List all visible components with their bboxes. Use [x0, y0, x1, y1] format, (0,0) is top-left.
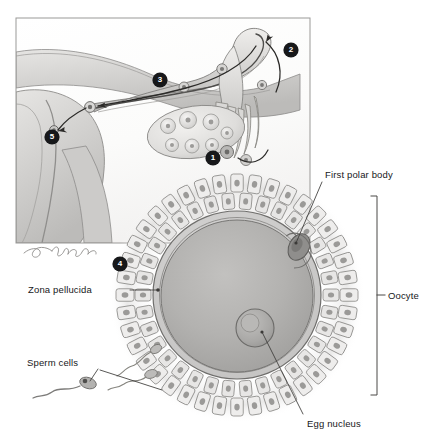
marker-3	[152, 72, 167, 87]
ovulation-fertilization-figure	[0, 0, 438, 448]
leader-sperm-2	[90, 369, 98, 381]
marker-2	[283, 42, 298, 57]
egg-nucleus-highlight	[241, 314, 259, 332]
label-zona-pellucida: Zona pellucida	[28, 285, 92, 295]
label-sperm-cells: Sperm cells	[27, 358, 78, 368]
released-oocyte	[225, 150, 230, 155]
corona-radiata-cell-nucleus	[234, 180, 239, 187]
oocyte-bracket	[371, 196, 385, 395]
dot-zona-pellucida	[156, 288, 160, 292]
dot-first-polar-body	[294, 241, 297, 244]
label-oocyte: Oocyte	[388, 291, 419, 301]
artist-signature	[24, 247, 96, 257]
corona-radiata-cell-nucleus	[346, 292, 353, 297]
corona-radiata-cell-nucleus	[140, 293, 146, 298]
marker-1	[205, 150, 220, 165]
marker-4	[112, 256, 127, 271]
corona-radiata-cell-nucleus	[234, 404, 239, 411]
label-first-polar-body: First polar body	[325, 170, 393, 180]
corona-radiata-cell-nucleus	[328, 293, 334, 298]
label-egg-nucleus: Egg nucleus	[307, 419, 361, 429]
sperm-cell	[33, 375, 98, 398]
marker-5	[44, 129, 59, 144]
corona-radiata-cell-nucleus	[122, 292, 129, 297]
dot-egg-nucleus	[260, 330, 263, 333]
